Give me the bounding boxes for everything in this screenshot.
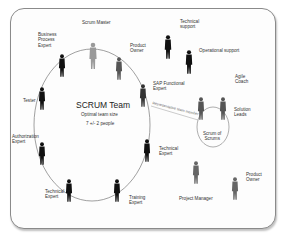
person-technical-expert-2-icon [144, 139, 150, 161]
person-scrum-master-icon [89, 43, 96, 69]
label-sap-functional-expert: SAP Functional Expert [153, 81, 185, 92]
label-product-owner-ext: Product Owner [246, 172, 262, 183]
person-technical-support-icon [165, 35, 171, 59]
label-scrum-of-scrums: Scrum of Scrums [203, 131, 221, 142]
label-training-expert: Training Expert [129, 195, 145, 206]
person-product-owner-ext-icon [232, 177, 238, 199]
person-technical-expert-1-icon [66, 179, 72, 201]
person-product-owner-icon [116, 57, 122, 79]
person-training-expert-icon [114, 179, 120, 201]
label-technical-expert-2: Technical Expert [159, 146, 178, 157]
label-project-manager: Project Manager [179, 196, 213, 201]
label-business-process-expert: Business Process Expert [38, 32, 57, 48]
label-technical-expert-1: Technical Expert [45, 189, 64, 200]
person-operational-support-icon [186, 50, 192, 74]
label-agile-coach: Agile Coach [235, 74, 248, 85]
label-solution-leads: Solution Leads [234, 107, 251, 118]
person-project-manager-icon [193, 161, 199, 183]
label-authorization-expert: Authorization Expert [12, 134, 39, 145]
label-product-owner: Product Owner [130, 43, 146, 54]
person-solution-leads-icon [220, 97, 226, 119]
label-operational-support: Operational support [199, 48, 239, 53]
team-subtitle: Optimal team size [81, 112, 118, 117]
label-technical-support: Technical support [180, 19, 199, 30]
team-size: 7 +/- 2 people [86, 121, 114, 126]
label-tester: Tester [23, 98, 36, 103]
person-sap-functional-expert-icon [140, 84, 146, 106]
label-scrum-master: Scrum Master [82, 20, 111, 25]
person-authorization-expert-icon [39, 142, 45, 164]
team-title: SCRUM Team [76, 100, 130, 110]
person-agile-coach-icon [198, 97, 204, 119]
